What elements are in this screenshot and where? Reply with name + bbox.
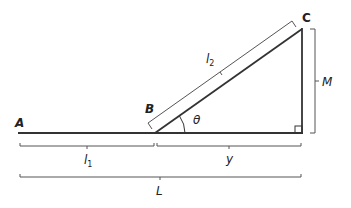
total-length-bracket <box>20 174 301 180</box>
point-b-label: B <box>145 102 154 116</box>
l2-label: l2 <box>206 52 214 68</box>
right-angle-marker <box>295 126 302 133</box>
l1-label: l1 <box>84 153 92 169</box>
l2-bracket <box>148 21 296 129</box>
l1-bracket <box>20 143 154 149</box>
point-a-label: A <box>14 116 24 130</box>
total-length-label: L <box>156 184 163 198</box>
theta-arc <box>180 116 186 133</box>
y-label: y <box>225 152 234 166</box>
m-label: M <box>322 75 333 89</box>
point-c-label: C <box>302 11 311 25</box>
m-bracket <box>310 29 319 133</box>
theta-label: θ <box>193 113 201 127</box>
y-bracket <box>157 143 301 149</box>
hypotenuse-bc <box>155 29 302 133</box>
triangle-diagram: A B C θ l2 M l1 y L <box>0 0 351 208</box>
